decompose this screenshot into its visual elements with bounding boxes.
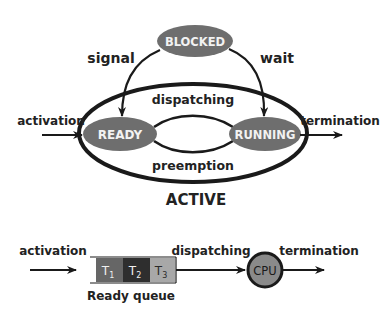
dispatching-label: dispatching bbox=[152, 92, 234, 107]
ready-state-label: READY bbox=[98, 128, 143, 142]
cpu-label: CPU bbox=[253, 264, 276, 278]
running-state-label: RUNNING bbox=[235, 128, 296, 142]
signal-label: signal bbox=[87, 50, 134, 66]
task-state-diagram: BLOCKED signal wait ACTIVE dispatching p… bbox=[0, 0, 390, 315]
ready-queue: T1 T2 T3 Ready queue bbox=[87, 257, 176, 303]
active-region-label: ACTIVE bbox=[166, 191, 226, 209]
task-t1: T1 bbox=[96, 258, 123, 282]
wait-label: wait bbox=[260, 50, 294, 66]
queue-dispatching-label: dispatching bbox=[171, 244, 250, 258]
task-t2-sub: 2 bbox=[136, 271, 141, 280]
ready-queue-label: Ready queue bbox=[87, 289, 175, 303]
task-t1-sub: 1 bbox=[109, 271, 114, 280]
blocked-state: BLOCKED bbox=[157, 25, 233, 57]
task-t3: T3 bbox=[150, 258, 175, 282]
dispatching-transition-curve bbox=[154, 116, 233, 127]
queue-activation-label: activation bbox=[19, 244, 87, 258]
running-state: RUNNING bbox=[229, 117, 301, 151]
preemption-transition-curve bbox=[154, 141, 233, 152]
blocked-state-label: BLOCKED bbox=[165, 35, 225, 49]
wait-transition-arrow bbox=[229, 49, 264, 116]
queue-diagram: activation T1 T2 bbox=[19, 244, 359, 303]
state-diagram: BLOCKED signal wait ACTIVE dispatching p… bbox=[17, 25, 380, 209]
cpu-node: CPU bbox=[248, 253, 282, 287]
termination-label: termination bbox=[300, 114, 380, 128]
task-t3-sub: 3 bbox=[162, 271, 167, 280]
preemption-label: preemption bbox=[152, 158, 234, 173]
queue-termination-label: termination bbox=[279, 244, 359, 258]
ready-state: READY bbox=[83, 117, 157, 151]
task-t2: T2 bbox=[123, 258, 150, 282]
activation-label: activation bbox=[17, 114, 85, 128]
